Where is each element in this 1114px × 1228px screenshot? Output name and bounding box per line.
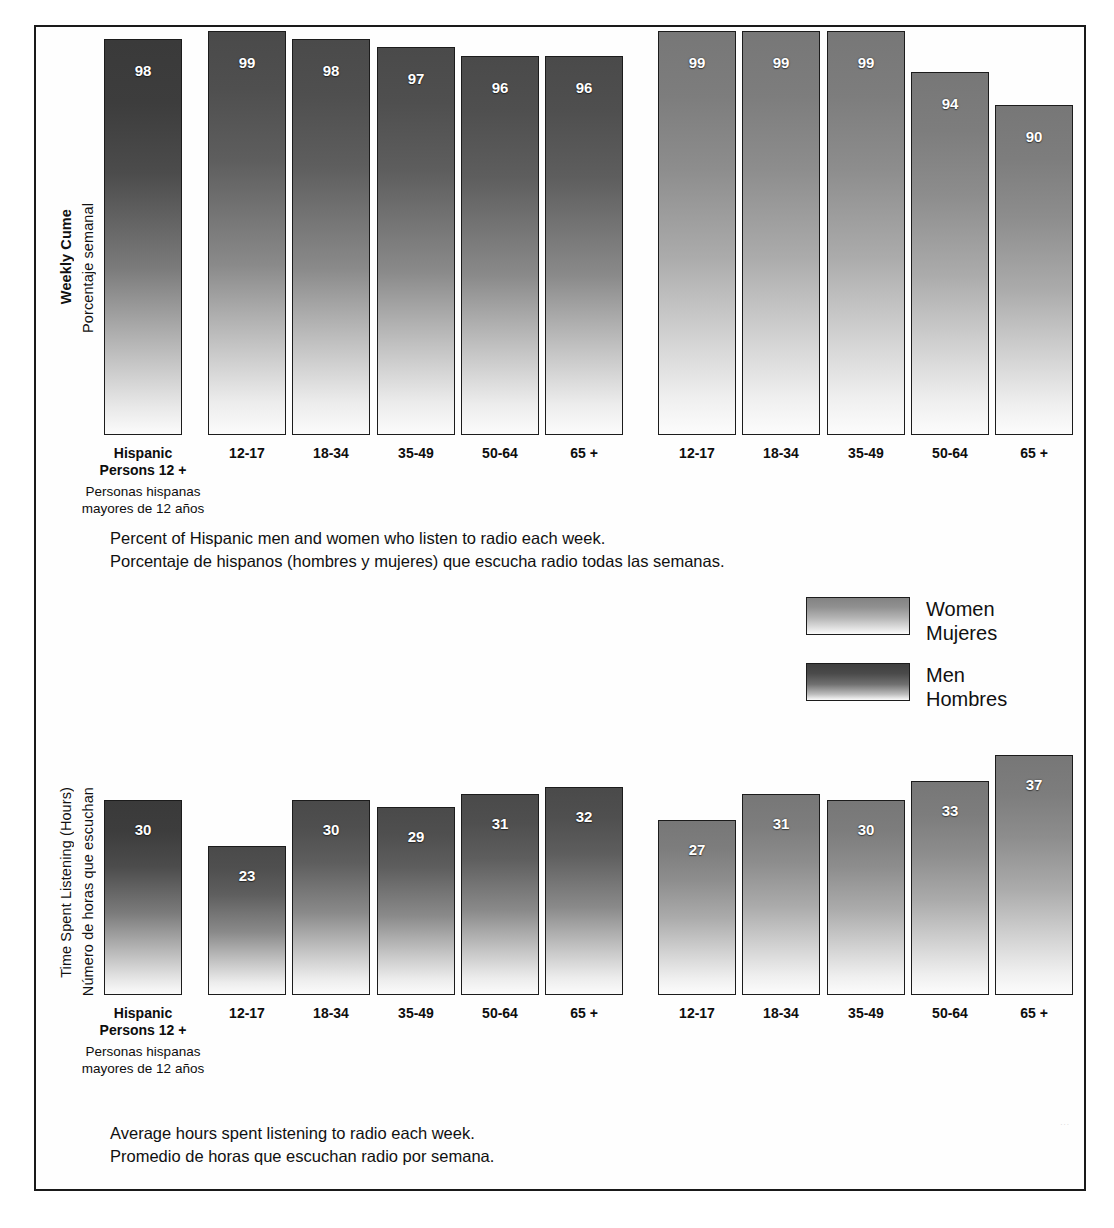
bar-women-18-34: 31 [742,794,820,995]
bar-value-label: 33 [912,802,988,819]
bar-value-label: 31 [462,815,538,832]
bar-men-65: 96 [545,56,623,435]
bar-men-50-64: 96 [461,56,539,435]
bar-value-label: 94 [912,95,988,112]
bar-fill [293,40,369,434]
bar-men-50-64: 31 [461,794,539,995]
bar-value-label: 30 [293,821,369,838]
bar-women-35-49: 99 [827,31,905,435]
bar-men-hispanic-persons-12: 98 [104,39,182,435]
legend-item-men: Men Hombres [806,663,1007,711]
x-tick-label: 65 + [944,1005,1114,1022]
bar-value-label: 37 [996,776,1072,793]
bar-value-label: 97 [378,70,454,87]
legend-label-women: Women Mujeres [926,597,997,645]
bar-men-hispanic-persons-12: 30 [104,800,182,995]
bar-women-35-49: 30 [827,800,905,995]
legend: Women Mujeres Men Hombres [806,597,1076,707]
legend-label-men-en: Men [926,664,965,686]
bar-value-label: 99 [659,54,735,71]
legend-label-women-en: Women [926,598,995,620]
bar-value-label: 27 [659,841,735,858]
bar-women-65: 37 [995,755,1073,995]
bar-value-label: 29 [378,828,454,845]
figure-frame: Weekly Cume Porcentaje semanal 989998979… [34,25,1086,1191]
bar-fill [659,32,735,434]
bar-value-label: 31 [743,815,819,832]
bar-value-label: 98 [293,62,369,79]
bar-fill [462,57,538,434]
scan-artifact: ... [1060,1118,1070,1127]
x-tick-sublabel-es: Personas hispanasmayores de 12 años [33,1043,253,1077]
bar-women-12-17: 99 [658,31,736,435]
bar-fill [209,32,285,434]
x-tick-label: 65 + [944,445,1114,462]
bar-value-label: 99 [743,54,819,71]
bottom-caption-es: Promedio de horas que escuchan radio por… [110,1145,494,1168]
legend-item-women: Women Mujeres [806,597,997,645]
bar-value-label: 32 [546,808,622,825]
legend-swatch-men [806,663,910,701]
bar-men-65: 32 [545,787,623,995]
legend-swatch-women [806,597,910,635]
legend-label-women-es: Mujeres [926,621,997,645]
bar-value-label: 90 [996,128,1072,145]
bar-men-35-49: 29 [377,807,455,995]
weekly-cume-chart: 9899989796969999999490 [36,27,1084,437]
legend-label-men-es: Hombres [926,687,1007,711]
bar-value-label: 96 [462,79,538,96]
bar-fill [996,106,1072,434]
bar-fill [828,32,904,434]
bar-men-12-17: 99 [208,31,286,435]
bar-fill [912,73,988,434]
bar-fill [105,40,181,434]
bar-value-label: 99 [828,54,904,71]
bar-value-label: 98 [105,62,181,79]
top-caption-es: Porcentaje de hispanos (hombres y mujere… [110,550,725,573]
top-caption-en: Percent of Hispanic men and women who li… [110,529,605,547]
bottom-caption-en: Average hours spent listening to radio e… [110,1124,475,1142]
bar-men-35-49: 97 [377,47,455,435]
weekly-cume-bars: 9899989796969999999490 [36,27,1084,437]
bar-men-12-17: 23 [208,846,286,995]
bar-fill [378,48,454,434]
bar-women-50-64: 33 [911,781,989,995]
bar-value-label: 30 [105,821,181,838]
top-caption: Percent of Hispanic men and women who li… [110,527,725,573]
bar-fill [546,57,622,434]
bottom-caption: Average hours spent listening to radio e… [110,1122,494,1168]
time-spent-listening-chart: 3023302931322731303337 [36,727,1084,997]
bar-value-label: 23 [209,867,285,884]
bar-women-12-17: 27 [658,820,736,995]
bar-value-label: 99 [209,54,285,71]
bar-women-65: 90 [995,105,1073,435]
bar-value-label: 30 [828,821,904,838]
legend-label-men: Men Hombres [926,663,1007,711]
bar-men-18-34: 30 [292,800,370,995]
bar-men-18-34: 98 [292,39,370,435]
bar-women-50-64: 94 [911,72,989,435]
bar-value-label: 96 [546,79,622,96]
bar-fill [743,32,819,434]
time-spent-listening-bars: 3023302931322731303337 [36,727,1084,997]
bar-women-18-34: 99 [742,31,820,435]
x-tick-sublabel-es: Personas hispanasmayores de 12 años [33,483,253,517]
